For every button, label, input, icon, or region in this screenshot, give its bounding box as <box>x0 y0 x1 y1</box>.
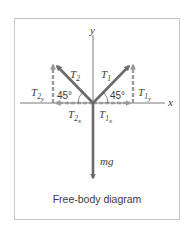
y-axis-label: y <box>89 24 95 36</box>
mg-label: mg <box>100 155 114 167</box>
t1x-label: T1x <box>99 108 113 125</box>
angle-arc-right <box>104 92 108 103</box>
angle-label-left: 45° <box>57 90 72 101</box>
diagram-caption: Free-body diagram <box>14 193 180 205</box>
t2y-label: T2y <box>31 86 45 103</box>
t2x-label: T2x <box>68 108 82 125</box>
angle-label-right: 45° <box>110 90 125 101</box>
angle-arc-left <box>78 92 82 103</box>
t1y-label: T1y <box>138 86 152 103</box>
t1-label: T1 <box>101 68 111 83</box>
x-axis-label: x <box>167 96 173 108</box>
